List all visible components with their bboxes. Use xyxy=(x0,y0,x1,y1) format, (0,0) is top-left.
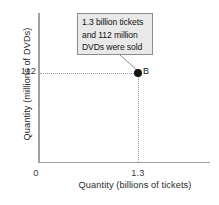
x-axis-tick-label-0: 0 xyxy=(31,168,41,178)
x-axis-title: Quantity (billions of tickets) xyxy=(55,180,215,190)
annotation-line-1: 1.3 billion tickets xyxy=(82,16,149,29)
scatter-chart: 1.3 billion tickets and 112 million DVDs… xyxy=(0,0,219,205)
x-axis-tick-label-1-3: 1.3 xyxy=(126,168,150,178)
annotation-line-3: DVDs were sold xyxy=(82,41,149,54)
y-axis-line xyxy=(38,13,40,163)
guide-line-vertical xyxy=(138,74,139,162)
data-point-b xyxy=(134,69,142,77)
data-point-b-label: B xyxy=(143,66,149,77)
annotation-line-2: and 112 million xyxy=(82,29,149,42)
x-axis-line xyxy=(38,162,210,164)
y-axis-title: Quantity (millions of DVDs) xyxy=(22,9,32,159)
guide-line-horizontal xyxy=(40,73,138,74)
annotation-callout-box: 1.3 billion tickets and 112 million DVDs… xyxy=(77,13,153,55)
